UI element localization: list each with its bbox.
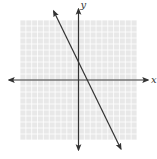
y-axis-label: y xyxy=(80,0,87,10)
coordinate-plane: x y xyxy=(0,0,157,159)
x-axis-label: x xyxy=(151,74,157,85)
